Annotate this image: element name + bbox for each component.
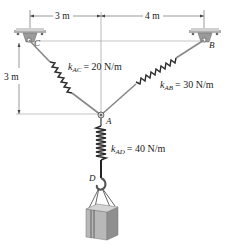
spring-ab bbox=[101, 40, 204, 115]
hook-d bbox=[97, 178, 106, 190]
label-k-ad: kAD= 40 N/m bbox=[111, 143, 165, 156]
support-b bbox=[189, 28, 221, 42]
label-d: D bbox=[88, 173, 96, 183]
label-a: A bbox=[105, 116, 112, 126]
vertical-dimension bbox=[16, 43, 101, 114]
spring-ad bbox=[96, 118, 106, 178]
dim-3m-vertical: 3 m bbox=[4, 72, 19, 82]
dim-4m-horizontal: 4 m bbox=[145, 11, 160, 21]
spring-ac bbox=[29, 40, 101, 115]
label-k-ac: kAC= 20 N/m bbox=[68, 61, 122, 74]
spring-diagram: 3 m 4 m 3 m C B kAC= 20 N/m bbox=[0, 0, 234, 245]
dim-3m-horizontal: 3 m bbox=[55, 11, 70, 21]
weight-box bbox=[86, 204, 118, 240]
label-k-ab: kAB= 30 N/m bbox=[160, 79, 214, 92]
label-b: B bbox=[209, 40, 215, 50]
joint-a bbox=[98, 112, 104, 118]
